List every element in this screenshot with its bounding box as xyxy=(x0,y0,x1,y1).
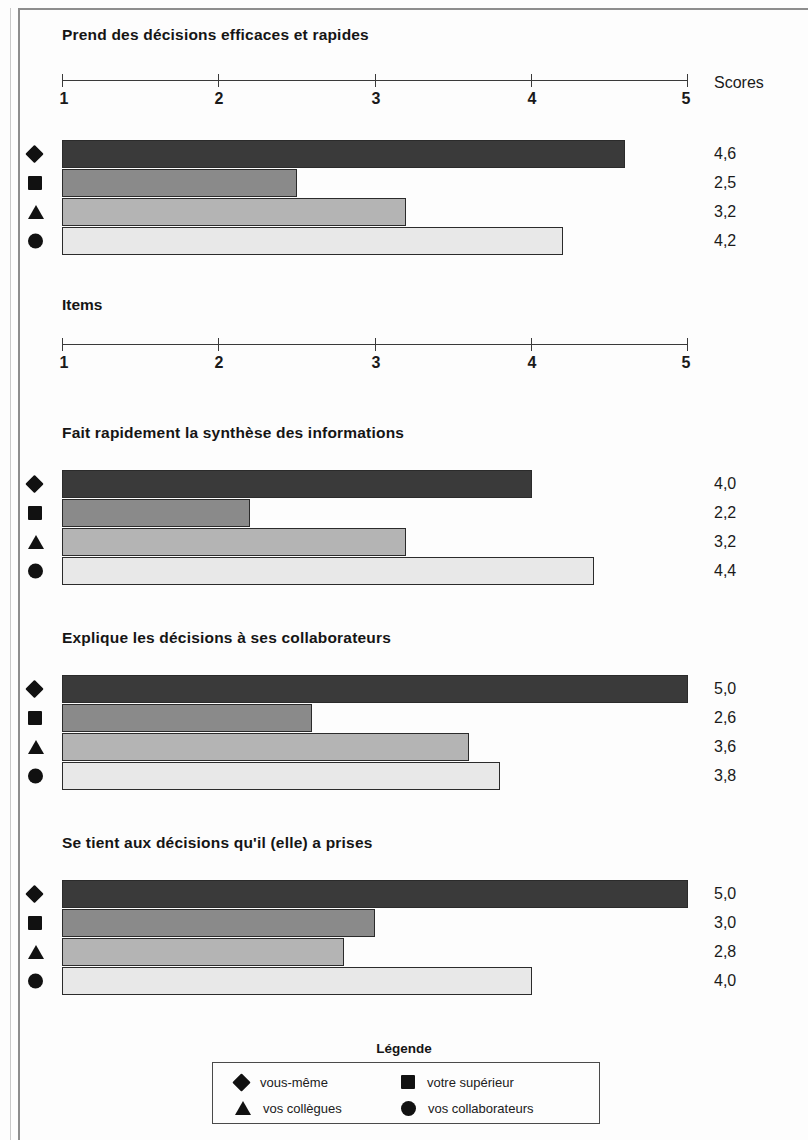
score-value: 5,0 xyxy=(714,680,736,698)
items-axis-label: Items xyxy=(62,296,103,314)
bar-row: 3,8 xyxy=(0,762,808,790)
axis-tick xyxy=(531,338,532,351)
bar-row: 5,0 xyxy=(0,675,808,703)
bar xyxy=(62,227,563,255)
axis-tick-label: 3 xyxy=(372,90,381,108)
triangle-marker-icon xyxy=(28,945,44,959)
axis-0: 1 2 3 4 5 xyxy=(62,72,688,102)
square-marker-icon xyxy=(401,1075,415,1089)
score-value: 4,0 xyxy=(714,972,736,990)
score-value: 2,8 xyxy=(714,943,736,961)
legend-title: Légende xyxy=(0,1041,808,1056)
score-value: 3,0 xyxy=(714,914,736,932)
bar xyxy=(62,169,297,197)
score-value: 2,5 xyxy=(714,174,736,192)
legend-box: vous-même votre supérieur vos collègues … xyxy=(212,1062,600,1124)
axis-tick-label: 1 xyxy=(60,90,69,108)
bar xyxy=(62,528,406,556)
bar xyxy=(62,470,532,498)
bar xyxy=(62,733,469,761)
bar xyxy=(62,762,500,790)
axis-tick-label: 4 xyxy=(528,90,537,108)
chart-content: Prend des décisions efficaces et rapides… xyxy=(0,0,808,1140)
bar xyxy=(62,198,406,226)
bar xyxy=(62,967,532,995)
chart-page: Prend des décisions efficaces et rapides… xyxy=(0,0,808,1140)
score-value: 4,6 xyxy=(714,145,736,163)
legend-item: vos collègues xyxy=(235,1096,342,1120)
legend-item: vos collaborateurs xyxy=(401,1096,534,1120)
diamond-marker-icon xyxy=(25,145,43,163)
bar-row: 3,6 xyxy=(0,733,808,761)
legend-item-label: votre supérieur xyxy=(427,1075,514,1090)
triangle-marker-icon xyxy=(28,535,44,549)
legend-item-label: vos collaborateurs xyxy=(428,1101,534,1116)
axis-tick-label: 2 xyxy=(215,354,224,372)
bar xyxy=(62,499,250,527)
score-value: 2,6 xyxy=(714,709,736,727)
bar-row: 3,0 xyxy=(0,909,808,937)
chart-title-1: Fait rapidement la synthèse des informat… xyxy=(62,424,404,442)
bar xyxy=(62,140,625,168)
square-marker-icon xyxy=(28,506,42,520)
diamond-marker-icon xyxy=(25,885,43,903)
score-value: 3,2 xyxy=(714,533,736,551)
score-value: 4,2 xyxy=(714,232,736,250)
axis-tick-label: 1 xyxy=(60,354,69,372)
bar-row: 5,0 xyxy=(0,880,808,908)
axis-tick-label: 5 xyxy=(682,90,691,108)
bar xyxy=(62,675,688,703)
bar-row: 2,5 xyxy=(0,169,808,197)
bar-row: 2,8 xyxy=(0,938,808,966)
square-marker-icon xyxy=(28,176,42,190)
diamond-marker-icon xyxy=(25,680,43,698)
triangle-marker-icon xyxy=(28,740,44,754)
axis-tick-label: 2 xyxy=(215,90,224,108)
score-value: 4,0 xyxy=(714,475,736,493)
bar-row: 3,2 xyxy=(0,528,808,556)
score-value: 3,2 xyxy=(714,203,736,221)
bar-row: 2,6 xyxy=(0,704,808,732)
circle-marker-icon xyxy=(28,564,43,579)
legend-item-label: vos collègues xyxy=(263,1101,342,1116)
axis-tick xyxy=(531,74,532,87)
bar-row: 4,4 xyxy=(0,557,808,585)
legend-item: vous-même xyxy=(235,1070,328,1094)
bar xyxy=(62,909,375,937)
circle-marker-icon xyxy=(28,769,43,784)
axis-tick-label: 4 xyxy=(528,354,537,372)
axis-tick xyxy=(218,338,219,351)
bar xyxy=(62,880,688,908)
axis-tick xyxy=(375,74,376,87)
bar-row: 4,6 xyxy=(0,140,808,168)
axis-tick xyxy=(62,74,63,87)
square-marker-icon xyxy=(28,711,42,725)
triangle-marker-icon xyxy=(28,205,44,219)
scores-column-header: Scores xyxy=(714,74,764,92)
circle-marker-icon xyxy=(28,974,43,989)
axis-tick xyxy=(218,74,219,87)
axis-tick xyxy=(687,338,688,351)
axis-tick xyxy=(375,338,376,351)
triangle-marker-icon xyxy=(235,1101,251,1115)
chart-title-3: Se tient aux décisions qu'il (elle) a pr… xyxy=(62,834,373,852)
circle-marker-icon xyxy=(28,234,43,249)
chart-title-2: Explique les décisions à ses collaborate… xyxy=(62,629,391,647)
bar-row: 4,2 xyxy=(0,227,808,255)
axis-tick-label: 5 xyxy=(682,354,691,372)
score-value: 5,0 xyxy=(714,885,736,903)
axis-tick-label: 3 xyxy=(372,354,381,372)
circle-marker-icon xyxy=(401,1101,416,1116)
diamond-marker-icon xyxy=(25,475,43,493)
score-value: 3,8 xyxy=(714,767,736,785)
bar xyxy=(62,704,312,732)
score-value: 4,4 xyxy=(714,562,736,580)
score-value: 2,2 xyxy=(714,504,736,522)
bar xyxy=(62,557,594,585)
legend-item-label: vous-même xyxy=(260,1075,328,1090)
diamond-marker-icon xyxy=(232,1073,250,1091)
legend-item: votre supérieur xyxy=(401,1070,514,1094)
bar-row: 2,2 xyxy=(0,499,808,527)
score-value: 3,6 xyxy=(714,738,736,756)
bar-row: 4,0 xyxy=(0,967,808,995)
